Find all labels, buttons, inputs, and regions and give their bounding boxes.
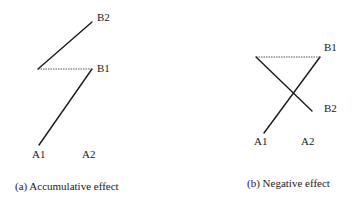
- panel-b-label-b2: B2: [324, 103, 337, 114]
- panel-b-line-a1-b1: [264, 57, 320, 133]
- panel-a-line-a1-b1: [39, 69, 92, 145]
- panel-b-line-vertex-b2: [256, 57, 312, 111]
- diagram-lines: [0, 0, 358, 197]
- panel-a-label-b1: B1: [97, 63, 110, 74]
- panel-b-caption: (b) Negative effect: [247, 177, 330, 189]
- panel-a-caption: (a) Accumulative effect: [15, 180, 119, 192]
- panel-a-lines: [38, 22, 92, 145]
- panel-b-label-a1: A1: [254, 136, 267, 147]
- panel-b-label-a2: A2: [301, 136, 314, 147]
- panel-b-lines: [256, 57, 320, 133]
- panel-a-label-a2: A2: [82, 149, 95, 160]
- panel-a-line-vertex-b2: [38, 22, 92, 69]
- panel-a-label-a1: A1: [32, 149, 45, 160]
- panel-b-label-b1: B1: [324, 42, 337, 53]
- panel-a-label-b2: B2: [97, 12, 110, 23]
